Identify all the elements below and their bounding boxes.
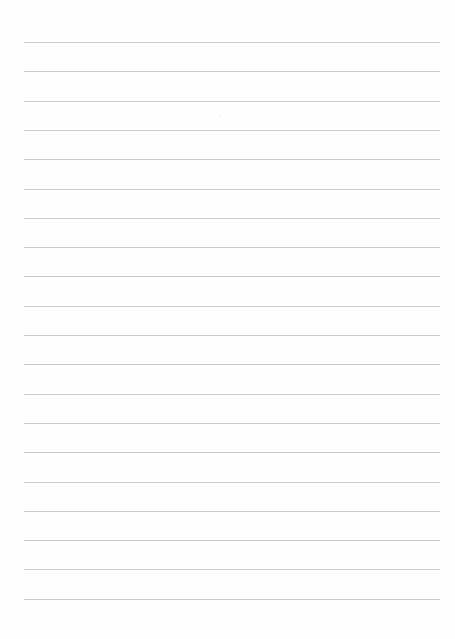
ruled-line xyxy=(24,599,440,600)
ruled-line xyxy=(24,247,440,248)
ruled-line xyxy=(24,540,440,541)
ruled-line xyxy=(24,218,440,219)
ruled-line xyxy=(24,101,440,102)
paper-speck xyxy=(219,115,220,116)
lined-page xyxy=(0,0,455,639)
ruled-line xyxy=(24,159,440,160)
ruled-line xyxy=(24,394,440,395)
ruled-line xyxy=(24,511,440,512)
ruled-line xyxy=(24,335,440,336)
ruled-line xyxy=(24,130,440,131)
ruled-line xyxy=(24,42,440,43)
ruled-line xyxy=(24,71,440,72)
ruled-line xyxy=(24,423,440,424)
ruled-line xyxy=(24,364,440,365)
ruled-line xyxy=(24,569,440,570)
ruled-line xyxy=(24,306,440,307)
ruled-line xyxy=(24,276,440,277)
ruled-line xyxy=(24,452,440,453)
ruled-line xyxy=(24,482,440,483)
ruled-line xyxy=(24,189,440,190)
